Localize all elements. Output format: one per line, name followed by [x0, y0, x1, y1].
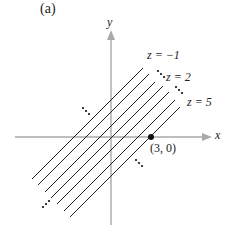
- level-label-5: z = 5: [187, 95, 212, 110]
- x-axis-arrow-icon: [202, 133, 212, 141]
- point-label: (3, 0): [150, 141, 176, 156]
- ellipsis-dots: [42, 70, 183, 208]
- axes: [15, 38, 205, 225]
- diagram-canvas: [0, 0, 237, 237]
- level-label-neg1: z = −1: [147, 48, 180, 63]
- level-label-2: z = 2: [166, 70, 191, 85]
- y-axis-label: y: [107, 15, 112, 30]
- x-axis-label: x: [215, 128, 220, 143]
- point-marker: [148, 134, 154, 140]
- y-axis-arrow-icon: [107, 30, 115, 40]
